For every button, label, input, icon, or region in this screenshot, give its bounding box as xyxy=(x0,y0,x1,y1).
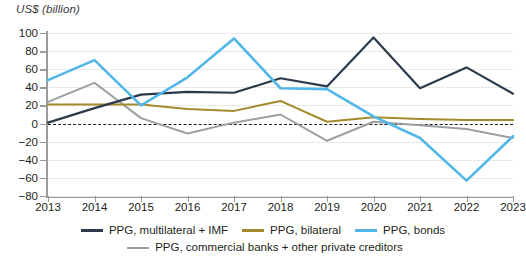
y-tick-label-80: 80 xyxy=(4,45,38,57)
legend-label-bilateral: PPG, bilateral xyxy=(270,225,341,237)
x-tick-label-2023: 2023 xyxy=(500,201,526,213)
legend-label-commercial-banks: PPG, commercial banks + other private cr… xyxy=(155,242,403,254)
series-line-ppg-bonds xyxy=(48,38,513,180)
y-tick-20 xyxy=(40,105,47,106)
y-tick--20 xyxy=(40,142,47,143)
y-tick-label-0: 0 xyxy=(4,118,38,130)
y-tick-label--40: −40 xyxy=(4,154,38,166)
y-tick-60 xyxy=(40,69,47,70)
series-line-ppg-multilateral-imf xyxy=(48,38,513,123)
legend-row-1: PPG, multilateral + IMF PPG, bilateral P… xyxy=(0,222,526,239)
y-tick-label-20: 20 xyxy=(4,99,38,111)
legend-item-commercial-banks[interactable]: PPG, commercial banks + other private cr… xyxy=(127,242,403,254)
series-line-ppg-commercial-banks-other-private-creditors xyxy=(48,83,513,141)
x-tick-label-2019: 2019 xyxy=(314,201,340,213)
x-tick-label-2022: 2022 xyxy=(454,201,480,213)
legend-item-bilateral[interactable]: PPG, bilateral xyxy=(242,225,341,237)
x-tick-label-2014: 2014 xyxy=(82,201,108,213)
chart-root: US$ (billion) 100806040200−20−40−60−80 2… xyxy=(0,0,526,259)
y-tick-80 xyxy=(40,51,47,52)
chart-legend: PPG, multilateral + IMF PPG, bilateral P… xyxy=(0,222,526,256)
x-tick-label-2013: 2013 xyxy=(35,201,61,213)
x-tick-label-2016: 2016 xyxy=(175,201,201,213)
x-tick-label-2017: 2017 xyxy=(221,201,247,213)
y-axis-labels: 100806040200−20−40−60−80 xyxy=(0,0,38,259)
y-tick--60 xyxy=(40,178,47,179)
legend-label-multilateral-imf: PPG, multilateral + IMF xyxy=(109,225,228,237)
y-tick-label--20: −20 xyxy=(4,136,38,148)
y-tick-label-100: 100 xyxy=(4,27,38,39)
legend-swatch-commercial-banks xyxy=(127,247,149,249)
y-tick-40 xyxy=(40,87,47,88)
x-tick-label-2018: 2018 xyxy=(268,201,294,213)
plot-area xyxy=(48,33,513,196)
x-tick-label-2021: 2021 xyxy=(407,201,433,213)
y-tick--40 xyxy=(40,160,47,161)
y-tick-label--60: −60 xyxy=(4,172,38,184)
y-tick-label-60: 60 xyxy=(4,63,38,75)
y-tick-100 xyxy=(40,33,47,34)
legend-swatch-bilateral xyxy=(242,229,264,232)
legend-swatch-multilateral-imf xyxy=(81,229,103,232)
y-tick-label--80: −80 xyxy=(4,190,38,202)
series-lines xyxy=(48,33,513,196)
legend-item-multilateral-imf[interactable]: PPG, multilateral + IMF xyxy=(81,225,228,237)
legend-item-bonds[interactable]: PPG, bonds xyxy=(355,225,445,237)
legend-row-2: PPG, commercial banks + other private cr… xyxy=(0,239,526,256)
y-tick-label-40: 40 xyxy=(4,81,38,93)
y-tick--80 xyxy=(40,196,47,197)
series-line-ppg-bilateral xyxy=(48,101,513,122)
legend-swatch-bonds xyxy=(355,229,377,232)
x-tick-label-2020: 2020 xyxy=(361,201,387,213)
y-tick-0 xyxy=(40,124,47,125)
legend-label-bonds: PPG, bonds xyxy=(383,225,445,237)
x-tick-label-2015: 2015 xyxy=(128,201,154,213)
